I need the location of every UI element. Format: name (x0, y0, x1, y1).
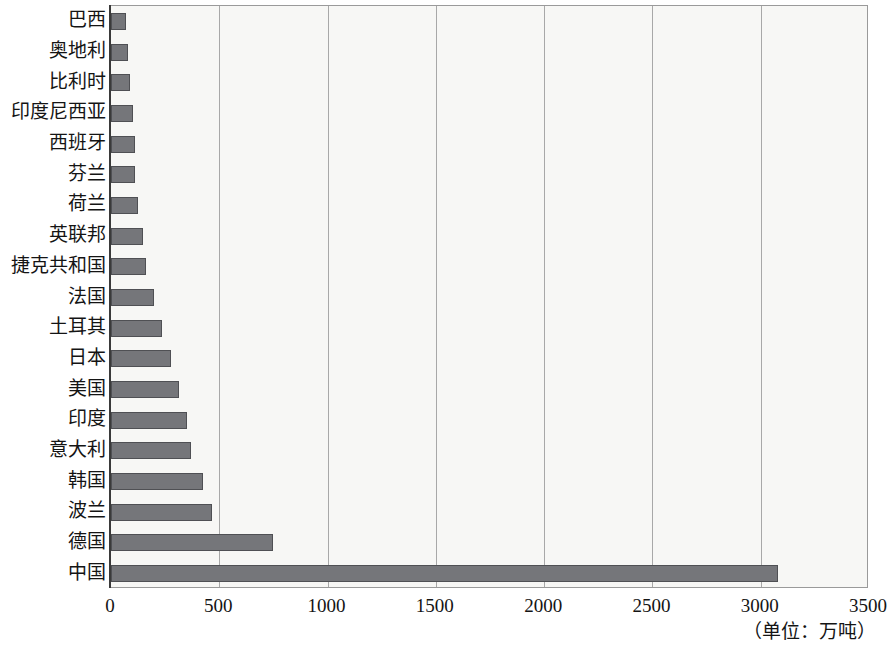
bar (111, 565, 778, 582)
category-label: 美国 (0, 379, 106, 399)
category-label: 英联邦 (0, 225, 106, 245)
category-label: 德国 (0, 532, 106, 552)
category-label: 西班牙 (0, 133, 106, 153)
bar (111, 504, 212, 521)
tick-label: 1000 (308, 594, 346, 618)
tick-label: 2000 (524, 594, 562, 618)
bar (111, 136, 135, 153)
bar (111, 534, 273, 551)
bar (111, 74, 130, 91)
gridline (328, 6, 329, 587)
value-axis-line (109, 5, 111, 588)
bar (111, 473, 203, 490)
tick-label: 3000 (741, 594, 779, 618)
bar (111, 105, 133, 122)
value-axis-tick-labels: 0500100015002000250030003500 (0, 594, 888, 620)
gridline (544, 6, 545, 587)
tick-label: 0 (105, 594, 115, 618)
category-label: 比利时 (0, 72, 106, 92)
gridline (652, 6, 653, 587)
category-label: 印度尼西亚 (0, 102, 106, 122)
tick-label: 3500 (849, 594, 887, 618)
category-label: 波兰 (0, 501, 106, 521)
bar (111, 258, 146, 275)
category-label: 中国 (0, 563, 106, 583)
category-label: 意大利 (0, 440, 106, 460)
category-axis-labels: 巴西奥地利比利时印度尼西亚西班牙芬兰荷兰英联邦捷克共和国法国土耳其日本美国印度意… (0, 5, 108, 588)
bar (111, 412, 187, 429)
category-label: 法国 (0, 287, 106, 307)
bar (111, 13, 126, 30)
gridline (436, 6, 437, 587)
bar-chart: 巴西奥地利比利时印度尼西亚西班牙芬兰荷兰英联邦捷克共和国法国土耳其日本美国印度意… (0, 0, 888, 648)
bar (111, 350, 171, 367)
plot-area (110, 5, 868, 588)
bar (111, 197, 138, 214)
tick-label: 500 (204, 594, 233, 618)
unit-annotation: （单位：万吨） (743, 620, 876, 644)
gridline (219, 6, 220, 587)
bar (111, 228, 143, 245)
category-label: 奥地利 (0, 41, 106, 61)
bar (111, 442, 191, 459)
bar (111, 289, 154, 306)
bar (111, 381, 179, 398)
category-label: 巴西 (0, 10, 106, 30)
bar (111, 44, 128, 61)
category-label: 韩国 (0, 471, 106, 491)
bar (111, 166, 135, 183)
bar (111, 320, 162, 337)
category-label: 荷兰 (0, 194, 106, 214)
category-label: 印度 (0, 409, 106, 429)
category-label: 捷克共和国 (0, 256, 106, 276)
gridline (761, 6, 762, 587)
tick-label: 2500 (632, 594, 670, 618)
tick-label: 1500 (416, 594, 454, 618)
category-label: 日本 (0, 348, 106, 368)
category-label: 芬兰 (0, 164, 106, 184)
category-label: 土耳其 (0, 317, 106, 337)
